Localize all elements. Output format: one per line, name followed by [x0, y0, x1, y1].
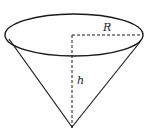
height-label: h: [77, 74, 84, 87]
cone-left-side: [9, 39, 72, 127]
cone-diagram: R h: [0, 0, 146, 138]
radius-label: R: [102, 21, 111, 34]
apex-point: [71, 126, 73, 128]
